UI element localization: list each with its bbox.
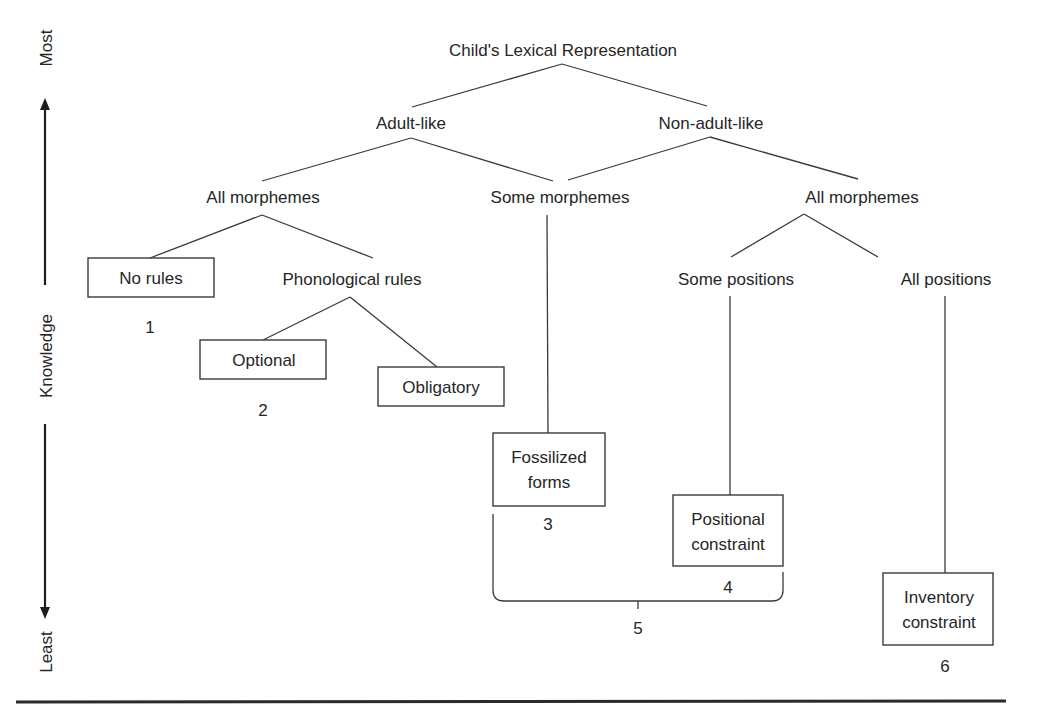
axis-label-knowledge: Knowledge [37,314,56,398]
leaf-box-inventory-constraint [883,573,993,645]
edge-adult-allmorph [262,138,411,181]
edge-allmorph-norules [150,215,262,258]
node-all-morphemes-right: All morphemes [805,188,918,207]
arrow-down-icon [40,607,50,619]
lexical-representation-tree: Most Knowledge Least Child's Lexical Rep… [0,0,1042,720]
axis-label-most: Most [37,29,56,66]
bottom-rule [16,701,1006,702]
edge-nonadult-somemorph [568,137,710,180]
leaf-fossilized-line1: Fossilized [511,448,587,467]
edge-root-adult [412,64,562,107]
number-1: 1 [145,318,154,337]
number-3: 3 [543,515,552,534]
number-6: 6 [940,657,949,676]
arrow-up-icon [40,98,50,110]
leaf-positional-line1: Positional [691,510,765,529]
leaf-positional-line2: constraint [691,535,765,554]
leaf-box-positional-constraint [673,495,783,566]
root-node: Child's Lexical Representation [449,41,677,60]
leaf-optional: Optional [232,351,295,370]
edge-allmorph-somepos [731,214,804,257]
leaf-no-rules: No rules [119,269,182,288]
number-5: 5 [633,619,642,638]
knowledge-axis: Most Knowledge Least [37,29,56,672]
node-non-adult-like: Non-adult-like [659,114,764,133]
axis-label-least: Least [37,631,56,673]
edge-phon-optional [263,297,350,340]
leaf-inventory-line1: Inventory [904,588,974,607]
leaf-inventory-line2: constraint [902,613,976,632]
number-2: 2 [258,401,267,420]
leaf-fossilized-line2: forms [528,473,571,492]
edge-somemorph-fossilized [547,215,548,433]
node-some-positions: Some positions [678,270,794,289]
edge-root-nonadult [562,64,707,106]
edge-phon-obligatory [350,297,437,367]
edge-nonadult-allmorph [710,137,858,179]
node-some-morphemes: Some morphemes [491,188,630,207]
node-adult-like: Adult-like [376,114,446,133]
node-all-morphemes-left: All morphemes [206,188,319,207]
node-all-positions: All positions [901,270,992,289]
number-4: 4 [723,578,732,597]
edge-allmorph-allpos [804,214,878,257]
edge-adult-somemorph [411,138,553,181]
leaf-box-fossilized-forms [493,433,605,506]
leaf-obligatory: Obligatory [402,378,480,397]
node-phonological-rules: Phonological rules [283,270,422,289]
edge-allmorph-phonrules [262,215,373,258]
